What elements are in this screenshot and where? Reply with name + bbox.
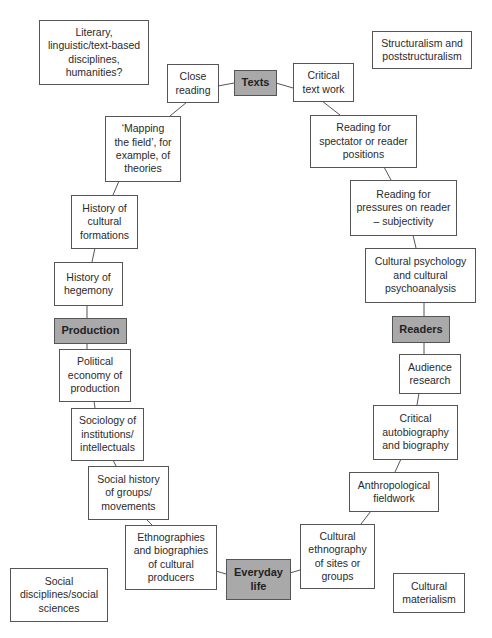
node-social-history: Social history of groups/ movements bbox=[88, 466, 169, 520]
node-label: Reading for pressures on reader – subjec… bbox=[357, 188, 451, 228]
node-sociology-institutions: Sociology of institutions/ intellectuals bbox=[71, 408, 144, 461]
corner-label-text: Cultural materialism bbox=[402, 580, 456, 607]
node-label: Critical autobiography and biography bbox=[382, 412, 449, 452]
node-label: History of cultural formations bbox=[80, 202, 129, 242]
node-label: Audience research bbox=[408, 361, 452, 388]
corner-label-structuralism: Structuralism and poststructuralism bbox=[372, 31, 472, 69]
node-anthropological-fieldwork: Anthropological fieldwork bbox=[349, 472, 439, 512]
corner-label-social-sciences: Social disciplines/social sciences bbox=[10, 568, 108, 622]
hub-texts: Texts bbox=[234, 70, 277, 96]
node-label: Critical text work bbox=[302, 69, 344, 96]
corner-label-literary-disciplines: Literary, linguistic/text-based discipli… bbox=[39, 20, 149, 85]
node-audience-research: Audience research bbox=[399, 354, 461, 394]
corner-label-text: Structuralism and poststructuralism bbox=[381, 37, 463, 64]
hub-production: Production bbox=[54, 318, 127, 344]
cultural-studies-circuit-diagram: Literary, linguistic/text-based discipli… bbox=[0, 0, 492, 638]
node-label: History of hegemony bbox=[64, 271, 113, 298]
node-reading-spectator-positions: Reading for spectator or reader position… bbox=[310, 115, 417, 168]
node-label: Ethnographies and biographies of cultura… bbox=[134, 531, 209, 585]
corner-label-text: Social disciplines/social sciences bbox=[20, 575, 98, 615]
node-label: Reading for spectator or reader position… bbox=[319, 121, 408, 161]
node-cultural-psychology: Cultural psychology and cultural psychoa… bbox=[365, 248, 476, 303]
node-label: Sociology of institutions/ intellectuals bbox=[79, 414, 136, 454]
node-label: Social history of groups/ movements bbox=[97, 473, 159, 513]
hub-everyday-life: Everyday life bbox=[226, 559, 291, 600]
node-label: ‘Mapping the field’, for example, of the… bbox=[114, 122, 171, 176]
hub-label: Production bbox=[61, 324, 119, 337]
node-label: Cultural psychology and cultural psychoa… bbox=[375, 255, 467, 295]
corner-label-cultural-materialism: Cultural materialism bbox=[393, 573, 465, 613]
node-label: Close reading bbox=[175, 70, 210, 97]
node-label: Anthropological fieldwork bbox=[358, 479, 430, 506]
node-mapping-the-field: ‘Mapping the field’, for example, of the… bbox=[105, 116, 181, 182]
node-history-cultural-formations: History of cultural formations bbox=[71, 195, 138, 249]
hub-label: Everyday life bbox=[234, 566, 283, 593]
hub-label: Readers bbox=[399, 323, 442, 336]
node-critical-text-work: Critical text work bbox=[293, 63, 354, 102]
node-cultural-ethnography: Cultural ethnography of sites or groups bbox=[300, 524, 375, 589]
node-reading-pressures: Reading for pressures on reader – subjec… bbox=[350, 180, 457, 236]
node-label: Political economy of production bbox=[68, 355, 122, 395]
corner-label-text: Literary, linguistic/text-based discipli… bbox=[48, 26, 140, 80]
hub-label: Texts bbox=[242, 76, 270, 89]
hub-readers: Readers bbox=[392, 316, 450, 343]
node-close-reading: Close reading bbox=[167, 64, 219, 103]
node-label: Cultural ethnography of sites or groups bbox=[308, 530, 366, 584]
node-history-hegemony: History of hegemony bbox=[54, 262, 123, 306]
node-political-economy: Political economy of production bbox=[59, 349, 131, 402]
node-critical-autobiography: Critical autobiography and biography bbox=[373, 405, 458, 460]
node-ethnographies-biographies: Ethnographies and biographies of cultura… bbox=[125, 525, 217, 590]
